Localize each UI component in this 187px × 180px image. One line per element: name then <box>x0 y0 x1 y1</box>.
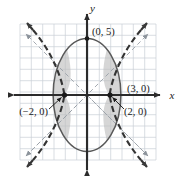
label-left-hyperbola-vertex: (−2, 0) <box>19 106 48 118</box>
point-marker-right-hyperbola-vertex <box>107 92 112 97</box>
point-marker-left-hyperbola-vertex <box>62 92 67 97</box>
conic-sections-figure: y x (0, 5) (3, 0) (2, 0) (−2, 0) <box>0 0 187 180</box>
label-top-vertex: (0, 5) <box>92 26 115 38</box>
point-marker-top-vertex <box>85 36 90 41</box>
label-right-ellipse-vertex: (3, 0) <box>127 83 150 95</box>
x-axis-label: x <box>169 89 175 101</box>
y-axis-label: y <box>89 2 95 14</box>
label-right-hyperbola-vertex: (2, 0) <box>124 106 147 118</box>
